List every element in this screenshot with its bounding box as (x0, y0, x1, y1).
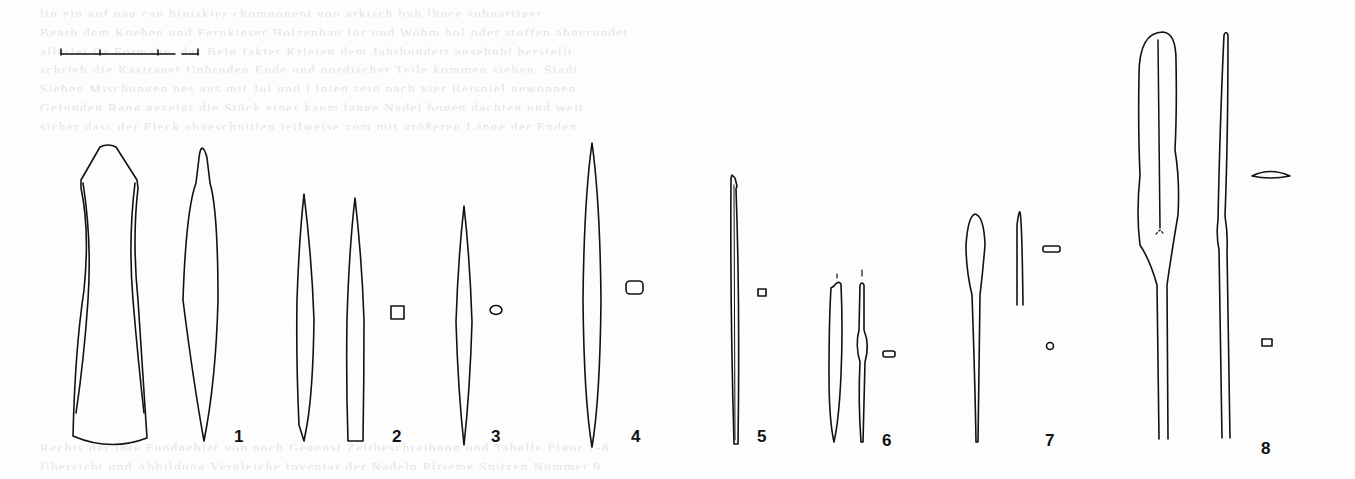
object-7-needle (966, 214, 985, 442)
object-2-view-b (347, 198, 364, 441)
object-1-side-view (183, 148, 218, 441)
object-label-4: 4 (631, 428, 640, 445)
object-4-view (583, 143, 601, 447)
drawings-canvas (0, 0, 1355, 479)
object-1-front-view (73, 145, 147, 445)
object-6-cross-section (883, 351, 895, 357)
object-5-cross-section (758, 289, 766, 296)
object-label-5: 5 (757, 428, 766, 445)
object-label-8: 8 (1261, 440, 1270, 457)
object-4-cross-section (626, 281, 643, 294)
object-8-side-view (1217, 33, 1230, 439)
object-8-cross-section-b (1262, 339, 1272, 346)
object-6-view-a (829, 274, 842, 442)
object-label-1: 1 (234, 428, 243, 445)
object-2-cross-section (391, 306, 404, 319)
object-7-cross-section-b (1047, 343, 1054, 350)
object-3-cross-section (490, 306, 502, 315)
object-7-cross-section-a (1043, 246, 1060, 252)
object-5-view (731, 175, 739, 444)
object-label-7: 7 (1045, 432, 1054, 449)
object-7-head-detail (1017, 212, 1023, 305)
scale-bar (61, 49, 198, 55)
object-8-cross-section-a (1252, 172, 1290, 179)
object-2-view-a (297, 194, 314, 441)
object-8-front-view (1138, 32, 1179, 439)
figure-plate: lin ein auf pag cap biniskier chomponent… (0, 0, 1355, 479)
object-6-view-b (857, 270, 867, 442)
object-label-2: 2 (392, 428, 401, 445)
object-3-view (456, 206, 472, 445)
object-label-6: 6 (882, 432, 891, 449)
object-label-3: 3 (491, 428, 500, 445)
